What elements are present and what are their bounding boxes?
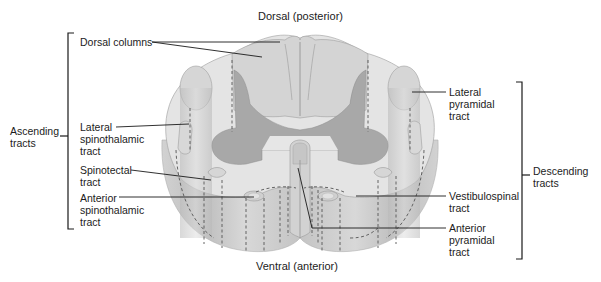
label-vestibulospinal-tract: Vestibulospinal tract [449, 190, 519, 214]
descending-tracts-group-label: Descending tracts [533, 165, 588, 189]
ascending-bracket [68, 33, 74, 229]
label-lateral-spinothalamic-tract: Lateral spinothalamic tract [80, 121, 144, 157]
dorsal-orientation-label: Dorsal (posterior) [258, 10, 343, 22]
anterior-median-fissure [290, 140, 310, 238]
label-dorsal-columns: Dorsal columns [80, 36, 152, 48]
dorsal-columns-region [232, 36, 368, 118]
ventral-orientation-label: Ventral (anterior) [256, 260, 338, 272]
label-lateral-pyramidal-tract: Lateral pyramidal tract [449, 86, 495, 122]
label-anterior-spinothalamic-tract: Anterior spinothalamic tract [80, 192, 144, 228]
descending-bracket [516, 82, 522, 259]
label-anterior-pyramidal-tract: Anterior pyramidal tract [449, 222, 495, 258]
spinal-cord-diagram: Dorsal (posterior) Ventral (anterior) As… [0, 0, 601, 282]
ascending-tracts-group-label: Ascending tracts [10, 125, 59, 149]
label-spinotectal-tract: Spinotectal tract [80, 164, 132, 188]
